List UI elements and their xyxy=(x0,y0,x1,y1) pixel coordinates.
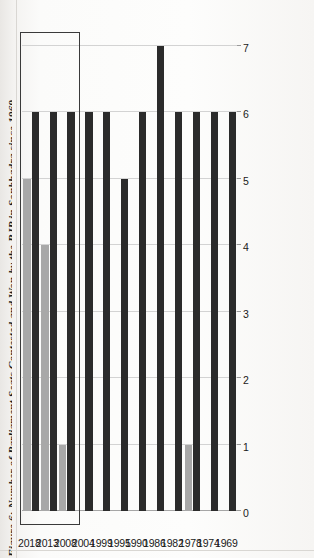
axis-tick-label: 2 xyxy=(243,374,249,386)
axis-tick-label: 4 xyxy=(243,241,249,253)
axis-tick xyxy=(237,311,241,312)
bar-contested xyxy=(103,112,110,511)
page-edge-line-bottom xyxy=(0,550,314,551)
bar-contested xyxy=(175,112,182,511)
bar-contested xyxy=(157,46,164,511)
category-label: 2018 xyxy=(18,537,41,549)
bar-chart: 76543210 1969197419781982198619901995199… xyxy=(16,9,298,549)
axis-tick-label: 6 xyxy=(243,108,249,120)
axis-tick xyxy=(237,45,241,46)
axis-tick xyxy=(237,444,241,445)
axis-tick xyxy=(237,510,241,511)
bar-won xyxy=(185,445,192,511)
axis-tick xyxy=(237,244,241,245)
axis-tick-label: 3 xyxy=(243,308,249,320)
figure-title: Figure 6: Number of Parliament Seats Con… xyxy=(6,5,12,557)
bar-contested xyxy=(139,112,146,511)
axis-tick xyxy=(237,111,241,112)
inset-highlight-box xyxy=(20,32,80,525)
axis-tick-label: 5 xyxy=(243,175,249,187)
bar-contested xyxy=(121,179,128,511)
axis-tick-label: 1 xyxy=(243,441,249,453)
bar-contested xyxy=(229,112,236,511)
plot-area xyxy=(22,46,237,511)
axis-tick xyxy=(237,377,241,378)
axis-tick xyxy=(237,178,241,179)
axis-tick-label: 0 xyxy=(243,507,249,519)
rotated-chart-wrapper: 76543210 1969197419781982198619901995199… xyxy=(16,9,298,549)
bar-contested xyxy=(85,112,92,511)
bar-contested xyxy=(211,112,218,511)
axis-tick-label: 7 xyxy=(243,42,249,54)
figure-title-clip: Figure 6: Number of Parliament Seats Con… xyxy=(0,0,12,558)
bar-contested xyxy=(193,112,200,511)
